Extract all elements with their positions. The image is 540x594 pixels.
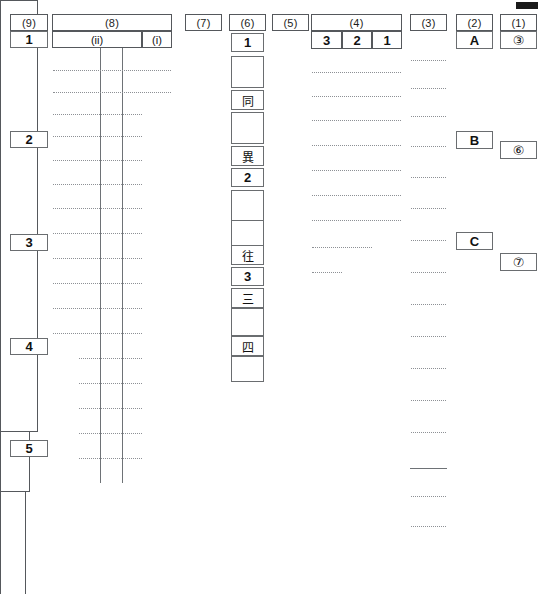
row-rule-3 xyxy=(411,432,446,433)
section-label-2-c: C xyxy=(456,232,493,250)
row-rule-8 xyxy=(53,114,142,115)
section-label-1-circled-7: ⑦ xyxy=(500,253,537,271)
row-rule-8 xyxy=(53,92,171,93)
row-rule-4 xyxy=(312,72,401,73)
item-6-1: 1 xyxy=(231,33,264,52)
row-rule-8 xyxy=(53,308,142,309)
row-rule-8 xyxy=(79,433,142,434)
item-6-2: 2 xyxy=(231,168,264,187)
section-label-1-circled-6: ⑥ xyxy=(500,141,537,159)
section-label-9-2: 2 xyxy=(10,131,48,148)
section-label-1-circled-3: ③ xyxy=(500,31,537,49)
item-6-kanji-i: 異 xyxy=(231,146,264,166)
row-rule-8 xyxy=(79,408,142,409)
row-rule-3 xyxy=(411,240,446,241)
answer-box-6-6[interactable] xyxy=(231,356,264,382)
row-rule-3 xyxy=(411,177,446,178)
column-body-9[interactable] xyxy=(0,0,38,432)
row-rule-3 xyxy=(411,368,446,369)
row-rule-4 xyxy=(312,247,372,248)
row-rule-8 xyxy=(79,358,142,359)
row-rule-4 xyxy=(312,96,401,97)
row-rule-3 xyxy=(411,400,446,401)
section-label-9-5: 5 xyxy=(10,440,48,457)
column-header-5: (5) xyxy=(272,14,309,31)
row-rule-8 xyxy=(53,333,142,334)
column-subheader-4-2: 2 xyxy=(342,31,372,49)
answer-box-6-1[interactable] xyxy=(231,56,264,88)
row-rule-8 xyxy=(79,458,142,459)
row-rule-3 xyxy=(411,88,446,89)
column-header-4: (4) xyxy=(311,14,402,31)
row-rule-4 xyxy=(312,145,401,146)
row-rule-8 xyxy=(53,160,142,161)
row-rule-4 xyxy=(312,272,342,273)
row-rule-3 xyxy=(411,208,446,209)
row-rule-4 xyxy=(312,170,401,171)
row-rule-8 xyxy=(53,184,142,185)
row-rule-8 xyxy=(79,383,142,384)
row-rule-8 xyxy=(53,283,142,284)
column-header-6: (6) xyxy=(229,14,266,31)
answer-box-6-2[interactable] xyxy=(231,112,264,144)
row-rule-4 xyxy=(312,195,401,196)
answer-area-8-ii-left[interactable] xyxy=(0,492,26,594)
row-rule-4 xyxy=(312,120,401,121)
row-rule-3 xyxy=(411,146,446,147)
column-subheader-8-i: (i) xyxy=(142,31,172,48)
section-divider-3 xyxy=(410,468,447,469)
row-rule-3 xyxy=(411,336,446,337)
row-rule-3 xyxy=(411,60,446,61)
row-rule-4 xyxy=(312,220,401,221)
item-6-kanji-dou-1: 同 xyxy=(231,90,264,110)
row-rule-3 xyxy=(411,116,446,117)
column-header-7: (7) xyxy=(185,14,222,31)
answer-box-6-3[interactable] xyxy=(231,190,264,222)
row-rule-3 xyxy=(411,496,446,497)
row-rule-8 xyxy=(53,70,171,71)
row-rule-3 xyxy=(411,526,446,527)
row-rule-8 xyxy=(53,208,142,209)
row-rule-8 xyxy=(53,136,142,137)
column-subheader-8-ii: (ii) xyxy=(52,31,142,48)
column-header-1: (1) xyxy=(500,14,537,31)
row-rule-3 xyxy=(411,272,446,273)
column-subheader-4-3: 3 xyxy=(311,31,342,49)
column-header-8: (8) xyxy=(52,14,172,31)
column-subheader-4-1: 1 xyxy=(372,31,402,49)
column-header-9: (9) xyxy=(10,14,48,31)
column-header-2: (2) xyxy=(456,14,493,31)
item-6-3: 3 xyxy=(231,267,264,286)
column-header-3: (3) xyxy=(410,14,447,31)
item-6-kanji-ou-2: 往 xyxy=(231,245,264,265)
row-rule-3 xyxy=(411,304,446,305)
section-label-2-a: A xyxy=(456,31,493,49)
row-rule-8 xyxy=(53,258,142,259)
item-6-kanji-shi: 四 xyxy=(231,336,264,356)
answer-box-6-5[interactable] xyxy=(231,308,264,336)
section-label-9-4: 4 xyxy=(10,338,48,355)
item-6-kanji-san: 三 xyxy=(231,288,264,308)
registration-mark xyxy=(516,2,538,9)
answer-sheet: (9) 1 2 3 4 5 (8) (ii) (i) (7) (6) 1 同 xyxy=(0,0,540,594)
section-label-2-b: B xyxy=(456,131,493,149)
row-rule-8 xyxy=(53,233,142,234)
section-label-9-3: 3 xyxy=(10,234,48,251)
section-label-9-1: 1 xyxy=(10,31,48,48)
